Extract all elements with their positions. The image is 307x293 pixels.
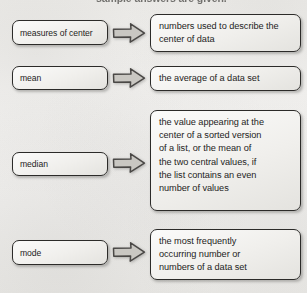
definition-text: the value appearing at the center of a s…: [159, 116, 292, 195]
definition-line: of a list, or the mean of: [159, 142, 292, 155]
right-block-arrow-icon: [112, 241, 146, 263]
definition-line: occurring number or: [159, 248, 292, 261]
term-label: measures of center: [20, 28, 93, 38]
vocabulary-matching-diagram: measures of center numbers used to descr…: [0, 0, 307, 293]
right-block-arrow-icon: [112, 22, 146, 44]
term-box-median[interactable]: median: [12, 152, 108, 176]
term-box-mean[interactable]: mean: [12, 66, 108, 90]
definition-box-measures-of-center[interactable]: numbers used to describe the center of d…: [150, 14, 301, 52]
definition-line: the average of a data set: [159, 72, 292, 85]
definition-line: numbers of a data set: [159, 261, 292, 274]
definition-line: the most frequently: [159, 235, 292, 248]
term-box-mode[interactable]: mode: [12, 240, 108, 265]
definition-line: the two central values, if: [159, 156, 292, 169]
definition-text: the average of a data set: [159, 72, 292, 85]
definition-text: the most frequently occurring number or …: [159, 235, 292, 275]
header-partial-text: sample answers are given.: [96, 0, 227, 4]
right-block-arrow-icon: [112, 67, 146, 89]
term-label: median: [20, 159, 48, 169]
page-header-strip: sample answers are given.: [0, 0, 307, 9]
right-block-arrow-icon: [112, 152, 146, 174]
definition-line: center of data: [159, 33, 292, 46]
definition-line: center of a sorted version: [159, 129, 292, 142]
definition-text: numbers used to describe the center of d…: [159, 20, 292, 46]
definition-line: numbers used to describe the: [159, 20, 292, 33]
term-box-measures-of-center[interactable]: measures of center: [12, 20, 108, 45]
definition-line: number of values: [159, 182, 292, 195]
definition-box-mean[interactable]: the average of a data set: [150, 66, 301, 91]
term-label: mode: [20, 248, 41, 258]
definition-box-median[interactable]: the value appearing at the center of a s…: [150, 110, 301, 211]
term-label: mean: [20, 73, 41, 83]
definition-line: the list contains an even: [159, 169, 292, 182]
definition-line: the value appearing at the: [159, 116, 292, 129]
definition-box-mode[interactable]: the most frequently occurring number or …: [150, 229, 301, 280]
